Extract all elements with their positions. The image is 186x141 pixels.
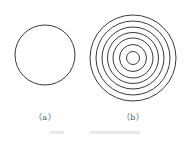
panel-a-label: （a） xyxy=(34,111,56,122)
concentric-ring-4 xyxy=(108,33,159,84)
panel-b-label: （b） xyxy=(122,111,145,122)
figure-caption-faint-text xyxy=(90,131,140,134)
panel-b-concentric-circles xyxy=(90,15,176,101)
concentric-ring-1 xyxy=(90,15,176,101)
concentric-ring-6 xyxy=(120,45,147,72)
figure-canvas xyxy=(0,0,186,141)
concentric-ring-3 xyxy=(102,27,164,89)
circle-a xyxy=(15,25,75,85)
panel-a-single-circle xyxy=(15,25,75,85)
concentric-ring-7 xyxy=(127,52,140,65)
figure-caption-faint xyxy=(50,131,64,134)
